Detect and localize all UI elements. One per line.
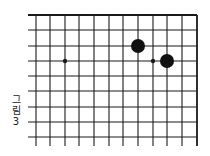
black-stone-icon bbox=[160, 54, 174, 68]
caption-char-3: 3 bbox=[9, 116, 23, 127]
star-point-icon bbox=[63, 59, 67, 63]
caption-char-2: 림 bbox=[9, 105, 23, 116]
figure-caption: 그 림 3 bbox=[9, 94, 23, 127]
go-diagram-figure: 그 림 3 bbox=[0, 0, 210, 156]
go-board bbox=[0, 0, 210, 156]
black-stone-icon bbox=[131, 39, 145, 53]
small-dot-mark-icon bbox=[151, 59, 155, 63]
caption-char-1: 그 bbox=[9, 94, 23, 105]
board-grid bbox=[28, 15, 197, 146]
